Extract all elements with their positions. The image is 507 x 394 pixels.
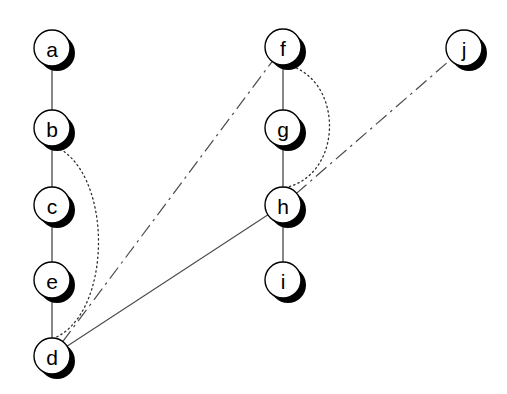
node-a[interactable]: a <box>34 30 75 71</box>
graph-diagram-canvas: abcedfghij <box>0 0 507 394</box>
node-label-d: d <box>46 346 58 369</box>
node-label-e: e <box>46 270 58 293</box>
nodes-layer: abcedfghij <box>34 29 487 379</box>
edge-d-h <box>66 214 269 346</box>
node-label-h: h <box>277 195 289 218</box>
edge-h-j <box>296 59 451 194</box>
node-j[interactable]: j <box>446 30 487 71</box>
node-label-g: g <box>277 118 289 141</box>
node-d[interactable]: d <box>34 338 75 379</box>
node-label-c: c <box>47 195 58 218</box>
node-g[interactable]: g <box>265 110 306 151</box>
node-b[interactable]: b <box>34 110 75 151</box>
node-c[interactable]: c <box>34 187 75 228</box>
edges-layer <box>52 59 451 347</box>
graph-svg: abcedfghij <box>0 0 507 394</box>
node-label-i: i <box>281 270 286 293</box>
node-h[interactable]: h <box>265 187 306 228</box>
edge-d-f <box>62 61 273 343</box>
node-i[interactable]: i <box>265 262 306 303</box>
node-label-j: j <box>461 38 467 61</box>
node-e[interactable]: e <box>34 262 75 303</box>
node-label-a: a <box>46 38 58 61</box>
node-label-b: b <box>46 118 58 141</box>
edge-b-d <box>52 145 99 339</box>
node-label-f: f <box>280 37 286 60</box>
